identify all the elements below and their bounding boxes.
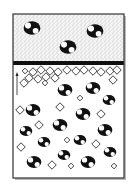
separator-band (13, 61, 124, 65)
particle-highlight (99, 125, 104, 130)
particle-highlight (34, 110, 39, 115)
particle-highlight (84, 114, 89, 119)
particle-highlight (104, 96, 109, 101)
particle-highlight (21, 127, 26, 132)
particle-highlight (61, 125, 66, 130)
particle-highlight (106, 130, 111, 135)
particle-highlight (96, 31, 102, 37)
particle-highlight (27, 105, 32, 110)
particle-highlight (28, 157, 33, 162)
particle-highlight (94, 88, 99, 93)
particle-highlight (69, 47, 75, 53)
particle-highlight (89, 162, 94, 167)
particle-highlight (33, 28, 39, 34)
particle-highlight (88, 26, 94, 32)
particle-highlight (54, 120, 59, 125)
particle-highlight (59, 151, 64, 156)
particle-highlight (77, 109, 82, 114)
upper-layer (13, 14, 124, 61)
particle-highlight (82, 157, 87, 162)
particle-highlight (27, 131, 31, 135)
particle-highlight (105, 148, 110, 153)
particle-highlight (59, 85, 64, 90)
particle-highlight (61, 42, 67, 48)
particle-diagram (0, 0, 133, 192)
particle-highlight (111, 152, 115, 156)
particle-highlight (75, 136, 80, 141)
particle-highlight (35, 162, 40, 167)
particle-highlight (39, 138, 44, 143)
particle-highlight (45, 142, 49, 146)
particle-highlight (66, 90, 71, 95)
particle-highlight (25, 23, 31, 29)
particle-highlight (65, 155, 69, 159)
particle-highlight (81, 140, 85, 144)
particle-highlight (87, 83, 92, 88)
particle-highlight (110, 100, 114, 104)
